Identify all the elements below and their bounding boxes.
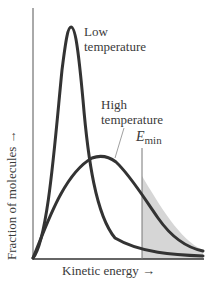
y-axis-label: Fraction of molecules → [4,130,20,260]
shaded-area [142,176,203,259]
label-leader-line [115,128,124,158]
emin-label: Emin [136,129,162,146]
low-temperature-curve [33,27,203,258]
low-temperature-label: Low temperature [84,24,146,54]
high-temperature-label: High temperature [101,97,163,127]
x-axis-label: Kinetic energy → [62,263,155,279]
